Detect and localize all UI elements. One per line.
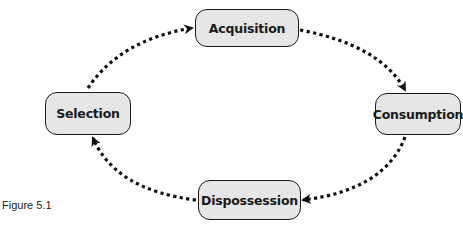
- arrow-dispossession-to-selection: [93, 138, 196, 200]
- node-label: Selection: [56, 106, 120, 121]
- node-acquisition: Acquisition: [195, 9, 299, 47]
- node-label: Acquisition: [209, 21, 286, 36]
- figure-caption: Figure 5.1: [2, 199, 52, 211]
- arrow-selection-to-acquisition: [88, 28, 192, 88]
- node-label: Dispossession: [201, 193, 298, 208]
- arrow-acquisition-to-consumption: [300, 30, 405, 90]
- node-selection: Selection: [45, 92, 131, 135]
- node-dispossession: Dispossession: [198, 180, 301, 220]
- node-label: Consumption: [373, 107, 463, 122]
- arrow-consumption-to-dispossession: [303, 137, 405, 200]
- node-consumption: Consumption: [375, 93, 461, 135]
